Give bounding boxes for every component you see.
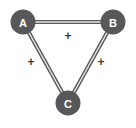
- edge-b-c[interactable]: [68, 22, 113, 103]
- graph-canvas: A B C + + +: [0, 0, 136, 128]
- node-c[interactable]: C: [56, 91, 81, 116]
- signed-graph-diagram: A B C + + +: [0, 0, 136, 128]
- node-b-label: B: [109, 17, 117, 29]
- edge-a-b-sign-label: +: [64, 29, 71, 43]
- edge-a-c-sign-label: +: [27, 55, 34, 69]
- node-c-label: C: [64, 98, 72, 110]
- edge-b-c-highlight: [68, 22, 113, 103]
- node-a-label: A: [19, 17, 27, 29]
- node-a[interactable]: A: [11, 10, 36, 35]
- node-b[interactable]: B: [101, 10, 126, 35]
- edge-b-c-sign-label: +: [97, 55, 104, 69]
